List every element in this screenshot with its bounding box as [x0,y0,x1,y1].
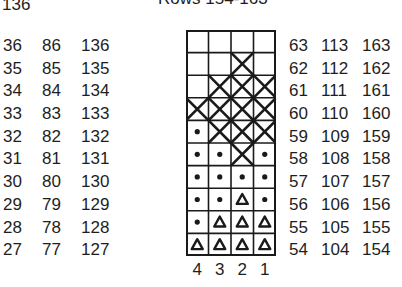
dot-stitch-icon [217,174,222,179]
triangle-stitch-icon [214,216,225,226]
row-number: 60 [289,103,308,126]
row-number: 132 [81,126,109,149]
dot-stitch-icon [217,151,222,156]
row-number: 135 [81,58,109,81]
dot-stitch-icon [262,196,267,201]
dot-stitch-icon [262,151,267,156]
row-number: 131 [81,148,109,171]
stitch-chart-grid [186,30,276,256]
row-number: 35 [3,58,22,81]
column-label: 2 [231,260,254,280]
row-number: 161 [362,80,390,103]
triangle-stitch-icon [236,239,247,249]
row-number: 158 [362,148,390,171]
top-left-number: 136 [2,0,30,15]
row-number: 107 [321,171,349,194]
row-number: 162 [362,58,390,81]
row-number: 104 [321,239,349,262]
row-number: 57 [289,171,308,194]
dot-stitch-icon [194,174,199,179]
row-number: 55 [289,217,308,240]
row-number: 28 [3,217,22,240]
row-number: 27 [3,239,22,262]
row-number: 61 [289,80,308,103]
row-number: 54 [289,239,308,262]
row-number: 156 [362,194,390,217]
row-number: 63 [289,35,308,58]
row-number: 85 [42,58,61,81]
row-number: 78 [42,217,61,240]
left-row-numbers-b: 86 85 84 83 82 81 80 79 78 77 [42,35,61,262]
row-number: 160 [362,103,390,126]
row-number: 163 [362,35,390,58]
dot-stitch-icon [262,174,267,179]
row-number: 127 [81,239,109,262]
triangle-stitch-icon [236,194,247,204]
dot-stitch-icon [194,219,199,224]
row-number: 130 [81,171,109,194]
row-number: 110 [321,103,349,126]
triangle-stitch-icon [214,239,225,249]
row-number: 83 [42,103,61,126]
row-number: 106 [321,194,349,217]
row-number: 56 [289,194,308,217]
row-number: 58 [289,148,308,171]
row-number: 81 [42,148,61,171]
row-number: 31 [3,148,22,171]
row-number: 133 [81,103,109,126]
row-number: 32 [3,126,22,149]
row-number: 105 [321,217,349,240]
triangle-stitch-icon [236,216,247,226]
row-number: 109 [321,126,349,149]
row-number: 82 [42,126,61,149]
column-label: 1 [254,260,277,280]
row-number: 159 [362,126,390,149]
left-row-numbers-c: 136 135 134 133 132 131 130 129 128 127 [81,35,109,262]
stitch-chart-symbols [186,30,276,256]
right-row-numbers-c: 163 162 161 160 159 158 157 156 155 154 [362,35,390,262]
row-number: 134 [81,80,109,103]
column-label: 3 [209,260,232,280]
triangle-stitch-icon [259,239,270,249]
row-number: 30 [3,171,22,194]
row-number: 154 [362,239,390,262]
row-number: 59 [289,126,308,149]
row-number: 111 [321,80,349,103]
row-number: 155 [362,217,390,240]
row-number: 33 [3,103,22,126]
row-number: 77 [42,239,61,262]
dot-stitch-icon [239,174,244,179]
row-number: 79 [42,194,61,217]
triangle-stitch-icon [259,216,270,226]
row-number: 34 [3,80,22,103]
row-number: 36 [3,35,22,58]
row-number: 80 [42,171,61,194]
row-number: 86 [42,35,61,58]
triangle-stitch-icon [191,239,202,249]
dot-stitch-icon [194,196,199,201]
row-number: 113 [321,35,349,58]
row-number: 128 [81,217,109,240]
row-number: 84 [42,80,61,103]
dot-stitch-icon [194,129,199,134]
row-number: 112 [321,58,349,81]
row-number: 136 [81,35,109,58]
column-label: 4 [186,260,209,280]
dot-stitch-icon [194,151,199,156]
right-row-numbers-a: 63 62 61 60 59 58 57 56 55 54 [289,35,308,262]
right-row-numbers-b: 113 112 111 110 109 108 107 106 105 104 [321,35,349,262]
row-number: 108 [321,148,349,171]
dot-stitch-icon [217,196,222,201]
chart-title: Rows 154-163 [158,0,268,9]
row-number: 29 [3,194,22,217]
left-row-numbers-a: 36 35 34 33 32 31 30 29 28 27 [3,35,22,262]
row-number: 62 [289,58,308,81]
column-labels: 4 3 2 1 [186,260,276,280]
row-number: 129 [81,194,109,217]
row-number: 157 [362,171,390,194]
